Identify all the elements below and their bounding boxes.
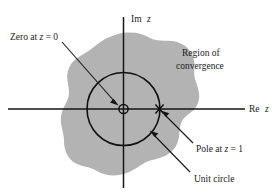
real-axis-label-text: Re [249,104,260,114]
pole-annotation-var: z [224,144,229,154]
imaginary-axis-label-var: z [146,14,151,24]
unit-circle-annotation-label: Unit circle [194,174,234,184]
pole-zero-figure: Im z Re z Zero at z = 0 Region of conver… [0,0,276,194]
region-annotation-line2: convergence [176,61,224,71]
region-of-convergence-shape [61,33,199,176]
real-axis-label: Re z [249,104,269,114]
zero-annotation-suffix: = 0 [46,32,59,42]
zero-annotation-var: z [39,32,44,42]
imaginary-axis-label-text: Im [131,14,142,24]
pole-annotation-label: Pole at z = 1 [196,144,243,154]
zero-annotation-prefix: Zero at [10,32,40,42]
imaginary-axis-label: Im z [131,14,151,24]
pole-annotation-suffix: = 1 [231,144,244,154]
region-annotation-line1: Region of [182,48,221,58]
pole-annotation-prefix: Pole at [196,144,225,154]
zero-annotation-label: Zero at z = 0 [10,32,58,42]
complex-plane-plot: Im z Re z Zero at z = 0 Region of conver… [0,0,276,194]
real-axis-label-var: z [264,104,269,114]
